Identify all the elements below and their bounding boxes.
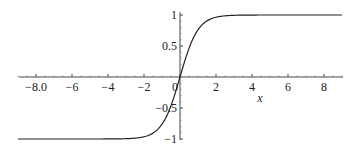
x-tick-label: −6 [66,80,79,94]
x-tick-label: 8 [321,80,327,94]
y-tick-label: −1 [164,132,177,146]
tanh-chart: −8.0−6−4−202468 x −1−0.50.51 [0,0,363,153]
y-tick-label: −0.5 [155,101,177,115]
x-tick-label: −8.0 [25,80,47,94]
y-tick-label: 0.5 [162,39,177,53]
x-tick-label: 4 [249,80,255,94]
x-tick-label: −2 [138,80,151,94]
x-tick-label: 2 [213,80,219,94]
x-axis-label: x [256,91,263,105]
x-tick-label: −4 [102,80,115,94]
y-tick-label: 1 [171,8,177,22]
x-tick-label: 6 [285,80,291,94]
